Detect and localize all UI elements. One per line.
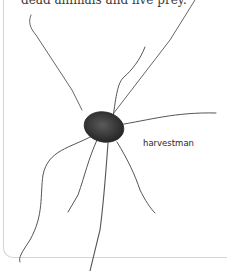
figure-caption: harvestman	[143, 138, 194, 148]
harvestman-illustration	[0, 0, 227, 271]
harvestman-body	[81, 108, 126, 146]
